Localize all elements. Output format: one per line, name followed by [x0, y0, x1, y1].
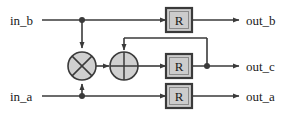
- junction-dot-in-a: [79, 93, 85, 99]
- adder-gate[interactable]: [110, 52, 138, 80]
- register-reg-a[interactable]: R: [166, 84, 192, 108]
- output-label-out-a: out_a: [246, 89, 275, 104]
- register-label: R: [175, 89, 184, 104]
- junction-dot-in-b: [79, 17, 85, 23]
- register-label: R: [175, 59, 184, 74]
- multiplier-gate[interactable]: [68, 52, 96, 80]
- output-label-out-c: out_c: [246, 59, 275, 74]
- circuit-canvas: R R R in_b in_a out_b out_c out_a: [0, 0, 289, 118]
- input-label-in-b: in_b: [10, 13, 33, 28]
- input-label-in-a: in_a: [10, 89, 33, 104]
- register-label: R: [175, 13, 184, 28]
- output-label-out-b: out_b: [246, 13, 276, 28]
- register-reg-c[interactable]: R: [166, 54, 192, 78]
- junction-dot-out-c: [204, 63, 210, 69]
- register-reg-b[interactable]: R: [166, 8, 192, 32]
- circuit-diagram: R R R in_b in_a out_b out_c out_a: [0, 0, 289, 118]
